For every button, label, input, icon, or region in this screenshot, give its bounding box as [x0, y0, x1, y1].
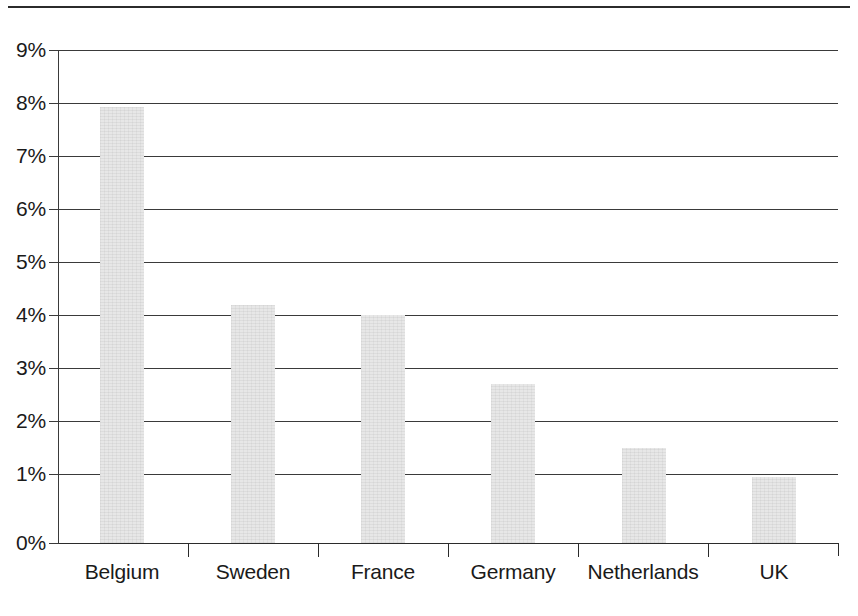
x-label-france: France: [323, 560, 443, 584]
x-label-sweden: Sweden: [193, 560, 313, 584]
x-label-germany: Germany: [453, 560, 573, 584]
bar-sweden[interactable]: [231, 305, 275, 544]
bar-netherlands[interactable]: [622, 448, 666, 543]
x-label-netherlands: Netherlands: [578, 560, 708, 584]
bar-belgium[interactable]: [100, 107, 144, 543]
bar-germany[interactable]: [491, 384, 535, 543]
bar-france[interactable]: [361, 315, 405, 543]
bar-chart-figure: 9% 8% 7% 6% 5% 4% 3% 2% 1% 0% Belgium Sw…: [0, 0, 858, 616]
x-label-uk: UK: [714, 560, 834, 584]
bar-uk[interactable]: [752, 477, 796, 543]
bar-series: [0, 0, 858, 616]
x-label-belgium: Belgium: [62, 560, 182, 584]
